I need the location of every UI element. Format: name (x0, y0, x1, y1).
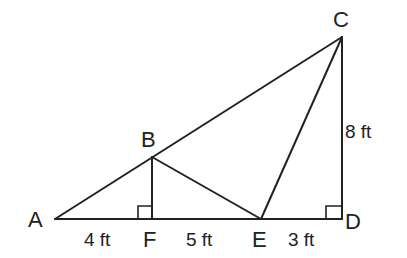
right-angle-marker-D (326, 206, 342, 219)
measure-ED: 3 ft (288, 229, 315, 250)
point-label-A: A (28, 207, 43, 232)
segment-AC (55, 37, 342, 219)
right-angle-marker-F (138, 206, 152, 219)
segment-CE (261, 37, 342, 219)
measure-AF: 4 ft (84, 229, 111, 250)
geometry-diagram: A B C D E F 4 ft 5 ft 3 ft 8 ft (0, 0, 407, 258)
segment-BE (152, 157, 261, 219)
point-label-D: D (345, 209, 361, 234)
point-label-C: C (333, 7, 349, 32)
measure-CD: 8 ft (345, 121, 372, 142)
point-label-F: F (143, 227, 156, 252)
point-label-E: E (252, 227, 267, 252)
diagram-canvas: A B C D E F 4 ft 5 ft 3 ft 8 ft (0, 0, 407, 258)
measure-FE: 5 ft (186, 229, 213, 250)
point-label-B: B (141, 127, 156, 152)
